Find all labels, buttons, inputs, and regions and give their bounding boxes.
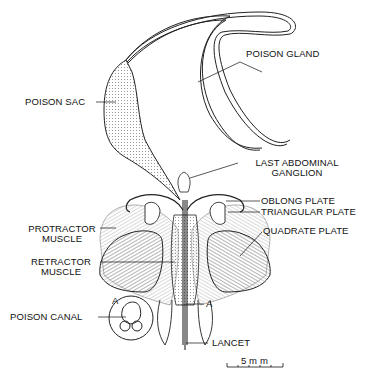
label-section-a: A	[206, 299, 212, 309]
label-triangular-plate: TRIANGULAR PLATE	[261, 207, 356, 217]
label-retractor-muscle: RETRACTOR MUSCLE	[25, 257, 97, 277]
label-poison-gland: POISON GLAND	[246, 49, 320, 59]
poison-gland	[126, 12, 296, 150]
label-protractor-muscle: PROTRACTOR MUSCLE	[22, 224, 102, 244]
sting-apparatus-drawing	[0, 0, 380, 382]
sting-sheath-left	[158, 300, 172, 345]
label-line-2: MUSCLE	[22, 234, 102, 244]
last-abdominal-ganglion	[178, 172, 190, 192]
label-poison-canal: POISON CANAL	[10, 312, 82, 322]
label-quadrate-plate: QUADRATE PLATE	[263, 226, 349, 236]
label-last-abdominal-ganglion: LAST ABDOMINAL GANGLION	[242, 158, 352, 178]
scale-bar-label: 5 m m	[241, 356, 268, 366]
label-line-2: MUSCLE	[25, 267, 97, 277]
label-poison-sac: POISON SAC	[25, 97, 85, 107]
label-lancet: LANCET	[212, 338, 250, 348]
label-inset-a: A	[112, 296, 118, 306]
label-line-2: GANGLION	[242, 168, 352, 178]
label-oblong-plate: OBLONG PLATE	[261, 196, 335, 206]
poison-sac	[104, 60, 180, 200]
